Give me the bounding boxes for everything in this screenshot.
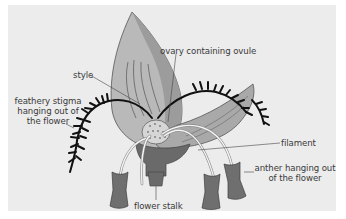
flower-diagram: ovary containing ovule style feathery st… (0, 0, 346, 219)
flower-stalk (148, 172, 164, 186)
label-anther-line1: anther hanging out (254, 163, 336, 173)
label-ovary: ovary containing ovule (160, 46, 256, 56)
label-filament: filament (281, 138, 316, 148)
label-flower-stalk: flower stalk (134, 201, 183, 211)
label-stigma-line1: feathery stigma (12, 96, 84, 106)
label-anther: anther hanging out of the flower (254, 163, 336, 183)
label-stigma-line2: hanging out of (12, 106, 84, 116)
label-stigma: feathery stigma hanging out of the flowe… (12, 96, 84, 126)
label-stigma-line3: the flower (12, 116, 84, 126)
label-style: style (73, 70, 93, 80)
label-anther-line2: of the flower (254, 173, 336, 183)
